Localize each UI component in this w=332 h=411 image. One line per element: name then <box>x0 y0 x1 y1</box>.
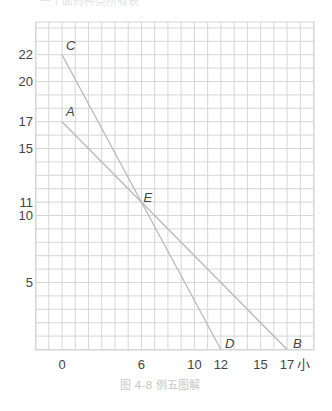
y-tick-label: 22 <box>19 47 33 62</box>
x-tick-label: 6 <box>138 357 145 372</box>
grid-border <box>36 22 314 350</box>
y-tick-label: 20 <box>19 74 33 89</box>
point-label-b: B <box>293 336 302 351</box>
figure-caption: 图 4-8 例五图解 <box>120 378 200 392</box>
y-tick-label: 11 <box>20 195 34 210</box>
grid <box>36 22 314 350</box>
y-axis-ticks: 5101115172022 <box>19 47 33 290</box>
x-axis-label: 小 <box>297 357 310 372</box>
point-label-c: C <box>66 38 76 53</box>
point-label-d: D <box>225 336 234 351</box>
x-tick-label: 0 <box>58 357 65 372</box>
cut-top-text: 一个面的种类所有表 <box>40 0 139 8</box>
line-ab <box>62 122 287 350</box>
x-tick-label: 10 <box>187 357 201 372</box>
point-label-e: E <box>143 190 152 205</box>
chart: 一个面的种类所有表 5101115172022 0610121517 ABCDE… <box>0 0 332 411</box>
y-tick-label: 17 <box>19 114 33 129</box>
y-tick-label: 10 <box>19 208 33 223</box>
x-axis-ticks: 0610121517 <box>58 357 294 372</box>
point-labels: ABCDE <box>65 38 302 351</box>
x-tick-label: 17 <box>280 357 294 372</box>
point-label-a: A <box>65 104 75 119</box>
y-tick-label: 5 <box>26 275 33 290</box>
x-tick-label: 15 <box>253 357 267 372</box>
x-tick-label: 12 <box>214 357 228 372</box>
y-tick-label: 15 <box>19 141 33 156</box>
